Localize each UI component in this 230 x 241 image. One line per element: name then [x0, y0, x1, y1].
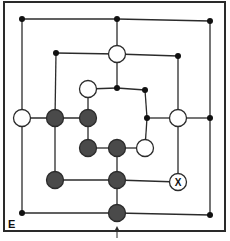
x-mark-icon: X — [175, 177, 182, 188]
black-piece-m-ml[interactable] — [47, 110, 64, 127]
board-line — [117, 19, 210, 21]
move-arrow-icon — [115, 226, 119, 238]
black-piece-i-bm[interactable] — [109, 140, 126, 157]
morris-board: X E — [0, 0, 230, 241]
empty-point-i-mr[interactable] — [144, 115, 150, 121]
white-piece-m-tm[interactable] — [109, 46, 126, 63]
empty-point-i-tm[interactable] — [114, 85, 120, 91]
corner-label: E — [8, 218, 15, 230]
empty-point-i-tr[interactable] — [142, 87, 148, 93]
target-point-m-br[interactable]: X — [170, 174, 187, 191]
black-piece-m-bl[interactable] — [47, 172, 64, 189]
black-piece-i-bl[interactable] — [80, 140, 97, 157]
white-piece-i-tl[interactable] — [80, 81, 97, 98]
black-piece-m-bm[interactable] — [109, 172, 126, 189]
empty-point-m-tl[interactable] — [53, 50, 59, 56]
white-piece-o-ml[interactable] — [14, 110, 31, 127]
board-line — [117, 180, 178, 182]
white-piece-m-mr[interactable] — [170, 110, 187, 127]
empty-point-o-bl[interactable] — [19, 210, 25, 216]
empty-point-o-mr[interactable] — [207, 115, 213, 121]
empty-point-m-tr[interactable] — [175, 53, 181, 59]
board-graphic: X — [0, 0, 230, 241]
board-line — [117, 213, 210, 215]
black-piece-o-bm[interactable] — [109, 205, 126, 222]
black-piece-i-ml[interactable] — [80, 110, 97, 127]
board-points: X — [14, 16, 214, 222]
board-line — [56, 53, 117, 54]
empty-point-o-tl[interactable] — [19, 16, 25, 22]
empty-point-o-br[interactable] — [207, 212, 213, 218]
board-line — [117, 88, 145, 90]
empty-point-o-tm[interactable] — [114, 16, 120, 22]
board-line — [145, 90, 147, 118]
board-line — [55, 53, 56, 118]
white-piece-i-br[interactable] — [137, 140, 154, 157]
board-line — [117, 54, 178, 56]
empty-point-o-tr[interactable] — [207, 18, 213, 24]
